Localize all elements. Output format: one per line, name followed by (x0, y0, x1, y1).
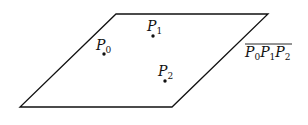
point-p2: P2 (157, 63, 173, 83)
point-dot (163, 79, 166, 82)
plane-diagram: P0 P1 P2 P0P1P2 (0, 0, 308, 125)
point-p0: P0 (95, 37, 111, 56)
point-label: P1 (146, 18, 162, 36)
plane-label: P0P1P2 (244, 44, 292, 62)
point-label: P0 (95, 37, 111, 55)
plane-parallelogram (20, 14, 268, 107)
point-label: P2 (157, 63, 173, 81)
point-dot (151, 34, 154, 37)
point-p1: P1 (146, 18, 162, 38)
svg-text:P0P1P2: P0P1P2 (244, 44, 290, 62)
